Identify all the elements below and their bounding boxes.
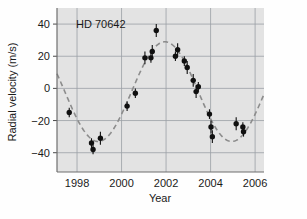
star-name-annotation: HD 70642 <box>76 18 126 30</box>
data-point <box>67 110 72 115</box>
y-tick-label: −40 <box>31 147 50 159</box>
chart-svg: 40200−20−40 19982000200220042006 Year Ra… <box>0 0 307 219</box>
x-tick-label: 2000 <box>109 177 133 189</box>
data-point <box>150 49 155 54</box>
y-tick-label: 40 <box>38 18 50 30</box>
data-point <box>240 124 245 129</box>
data-point <box>208 124 213 129</box>
data-point <box>90 147 95 152</box>
x-tick-label: 2004 <box>198 177 222 189</box>
data-point <box>191 78 196 83</box>
data-point <box>233 121 238 126</box>
y-axis-title: Radial velocity (m/s) <box>6 42 18 141</box>
data-point <box>154 28 159 33</box>
data-point <box>98 136 103 141</box>
data-point <box>142 55 147 60</box>
data-point <box>133 91 138 96</box>
data-point <box>210 134 215 139</box>
data-point <box>241 129 246 134</box>
x-axis-title: Year <box>149 192 172 204</box>
x-tick-label: 2006 <box>243 177 267 189</box>
data-point <box>185 65 190 70</box>
x-tick-label: 1998 <box>65 177 89 189</box>
data-point <box>175 47 180 52</box>
radial-velocity-chart: 40200−20−40 19982000200220042006 Year Ra… <box>0 0 307 219</box>
y-tick-label: −20 <box>31 115 50 127</box>
data-point <box>124 103 129 108</box>
data-point <box>148 55 153 60</box>
data-point <box>207 111 212 116</box>
plot-area-background <box>57 8 264 172</box>
y-tick-label: 20 <box>38 50 50 62</box>
y-tick-label: 0 <box>44 82 50 94</box>
data-point <box>196 84 201 89</box>
data-point <box>182 58 187 63</box>
x-tick-label: 2002 <box>154 177 178 189</box>
